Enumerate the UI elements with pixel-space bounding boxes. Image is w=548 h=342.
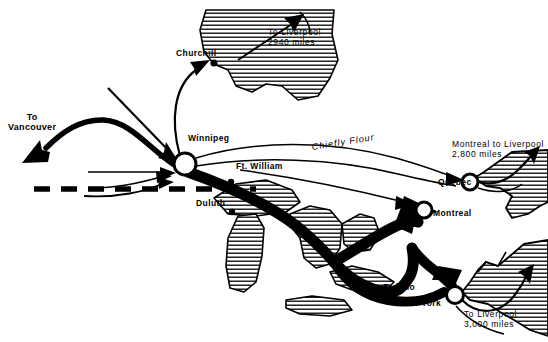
city-label-montreal: Montreal (433, 209, 472, 219)
marker-new-york (447, 287, 464, 304)
to-vancouver-line-1: To (8, 112, 56, 122)
montreal-liverpool-line-2: 2,800 miles (452, 150, 544, 160)
city-label-churchill: Churchill (176, 49, 216, 59)
hudson-liverpool-line-2: 2940 miles (268, 38, 321, 48)
city-label-quebec: Quebec (438, 178, 472, 188)
city-label-ft-william: Ft. William (236, 162, 283, 172)
route-label-montreal-to-liverpool: Montreal to Liverpool 2,800 miles (452, 140, 544, 160)
marker-ft-william (228, 179, 234, 185)
marker-montreal (416, 202, 432, 218)
city-label-duluth: Duluth (196, 199, 225, 209)
marker-buffalo (374, 286, 380, 292)
grain-route-map: Churchill Winnipeg Ft. William Duluth Qu… (0, 0, 548, 342)
route-label-to-vancouver: To Vancouver (8, 112, 56, 133)
hudson-bay-water (200, 10, 338, 100)
marker-churchill (210, 59, 217, 66)
to-vancouver-line-2: Vancouver (8, 122, 56, 132)
city-label-winnipeg: Winnipeg (188, 134, 229, 144)
route-label-to-liverpool-hudson: To Liverpool 2940 miles (268, 28, 321, 48)
city-label-buffalo: Buffalo (383, 283, 415, 293)
route-label-to-liverpool-newyork: To Liverpool 3,000 miles (464, 310, 517, 330)
marker-duluth (229, 209, 235, 215)
feeder-arrows-winnipeg (84, 88, 180, 196)
city-label-new-york: New York (400, 299, 441, 309)
ny-liverpool-line-2: 3,000 miles (464, 320, 517, 330)
marker-winnipeg (174, 153, 196, 175)
